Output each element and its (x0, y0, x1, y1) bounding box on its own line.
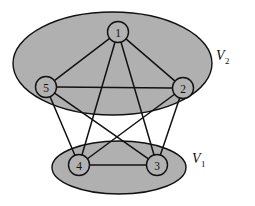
node-label-2: 2 (180, 83, 186, 95)
set-label-subscript-v2: 2 (225, 56, 230, 66)
set-label-v1: V1 (192, 151, 206, 169)
set-label-subscript-v1: 1 (201, 159, 206, 169)
graph-node-5: 5 (36, 77, 57, 98)
node-label-4: 4 (76, 160, 82, 172)
graph-edge-2-5 (56, 87, 172, 88)
graph-diagram: 12345 V2V1 (0, 0, 255, 206)
node-label-3: 3 (154, 160, 160, 172)
node-label-1: 1 (115, 27, 121, 39)
graph-node-4: 4 (69, 155, 90, 176)
figure-canvas: 12345 V2V1 (0, 0, 255, 206)
graph-node-2: 2 (173, 78, 194, 99)
node-label-5: 5 (43, 82, 49, 94)
set-label-v2: V2 (216, 48, 230, 66)
graph-node-3: 3 (147, 155, 168, 176)
graph-node-1: 1 (108, 22, 129, 43)
